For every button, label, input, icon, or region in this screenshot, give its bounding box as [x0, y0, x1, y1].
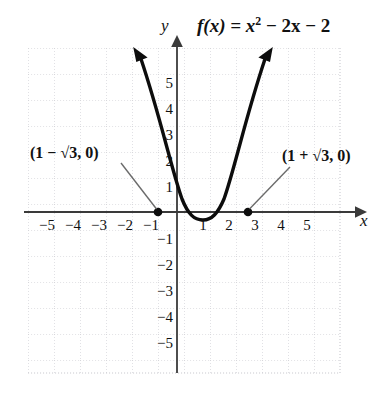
y-tick-label: 1 — [151, 180, 173, 195]
right-root-point — [244, 208, 253, 217]
graph-figure: f(x) = x2 − 2x − 2 y x (1 − √3, 0) (1 + … — [0, 0, 387, 395]
y-tick-label: −5 — [151, 336, 173, 351]
y-tick-label: −2 — [151, 258, 173, 273]
right-root-label: (1 + √3, 0) — [282, 148, 351, 164]
y-tick-label: 4 — [151, 102, 173, 117]
x-tick-label: −4 — [61, 218, 85, 233]
y-tick-label: 3 — [151, 128, 173, 143]
function-title: f(x) = x2 − 2x − 2 — [197, 16, 330, 35]
x-tick-label: 3 — [243, 218, 267, 233]
y-tick-label: 2 — [151, 154, 173, 169]
x-tick-label: −3 — [87, 218, 111, 233]
y-tick-label: −1 — [151, 232, 173, 247]
x-axis-label: x — [360, 212, 368, 229]
y-tick-label: 5 — [151, 76, 173, 91]
y-tick-label: −3 — [151, 284, 173, 299]
left-root-label: (1 − √3, 0) — [30, 145, 99, 161]
x-tick-label: 2 — [217, 218, 241, 233]
y-tick-label: −4 — [151, 310, 173, 325]
left-root-point — [154, 208, 163, 217]
x-tick-label: −5 — [35, 218, 59, 233]
x-tick-label: −2 — [113, 218, 137, 233]
y-axis-label: y — [161, 17, 169, 34]
x-tick-label: 1 — [191, 218, 215, 233]
coordinate-plane — [0, 0, 387, 395]
x-tick-label: 4 — [269, 218, 293, 233]
x-tick-label: 5 — [295, 218, 319, 233]
grid-background — [28, 48, 340, 373]
